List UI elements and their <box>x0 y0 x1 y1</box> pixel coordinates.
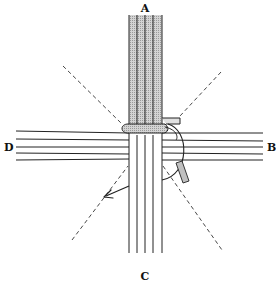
guide-lower-right <box>163 166 222 250</box>
guide-upper-left <box>63 66 122 124</box>
label-b: B <box>267 141 276 154</box>
direction-arrow <box>104 186 129 198</box>
guide-upper-right <box>180 72 221 116</box>
crossing-diagram: A B C D <box>0 0 276 286</box>
label-c: C <box>141 270 150 283</box>
label-d: D <box>4 141 14 154</box>
guide-lower-left <box>72 166 128 240</box>
cord-tail <box>176 161 189 183</box>
label-a: A <box>140 2 150 15</box>
vertical-strip-a-shaded <box>129 15 162 127</box>
vertical-strip-c <box>129 133 162 253</box>
